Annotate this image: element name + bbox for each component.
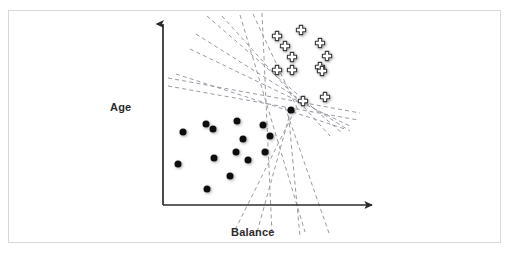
decision-boundary-line [168, 78, 360, 113]
negative-class-points [175, 107, 295, 193]
data-point-dot [267, 133, 274, 140]
data-point-dot [210, 126, 217, 133]
positive-class-points [272, 25, 331, 105]
data-point-cross [280, 41, 289, 50]
data-point-dot [203, 121, 210, 128]
decision-boundary-line [285, 107, 330, 236]
decision-boundary-line [196, 34, 350, 131]
decision-boundary-line [176, 74, 345, 129]
data-point-dot [240, 136, 247, 143]
data-point-dot [262, 149, 269, 156]
data-point-dot [211, 155, 218, 162]
data-point-dot [204, 186, 211, 193]
data-point-dot [245, 157, 252, 164]
data-point-cross [296, 25, 305, 34]
plot-canvas [0, 0, 510, 253]
data-point-dot [288, 107, 295, 114]
decision-boundary-line [240, 15, 305, 232]
data-point-dot [234, 118, 241, 125]
axes-group [163, 24, 372, 205]
data-point-dot [233, 149, 240, 156]
data-point-dot [175, 161, 182, 168]
data-point-cross [322, 51, 331, 60]
figure-root: Age Balance [0, 0, 510, 253]
decision-boundary-line [234, 110, 295, 232]
data-point-dot [180, 129, 187, 136]
data-point-cross [298, 96, 307, 105]
decision-boundary-line [288, 109, 300, 237]
data-point-dot [260, 122, 267, 129]
data-point-cross [287, 52, 296, 61]
x-axis-label: Balance [231, 226, 275, 238]
decision-boundary-line [256, 110, 291, 236]
data-point-cross [315, 38, 324, 47]
y-axis-label: Age [110, 101, 131, 113]
data-point-cross [272, 31, 281, 40]
data-point-cross [320, 92, 329, 101]
data-point-dot [227, 173, 234, 180]
data-point-cross [287, 65, 296, 74]
